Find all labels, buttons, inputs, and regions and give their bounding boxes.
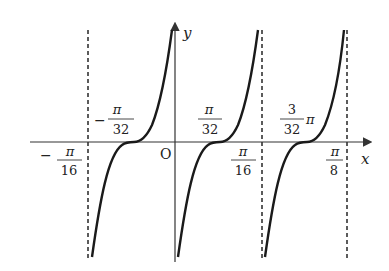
svg-text:16: 16 [235, 163, 252, 178]
svg-text:π: π [330, 144, 340, 159]
svg-text:π: π [65, 144, 75, 159]
label-pi-16: π 16 [231, 144, 256, 178]
svg-text:32: 32 [202, 122, 219, 137]
label-pi-32: π 32 [198, 102, 222, 137]
label-neg-pi-32: − π 32 [94, 102, 134, 137]
svg-text:π: π [305, 112, 315, 127]
svg-text:π: π [112, 102, 122, 117]
curve-branch-1 [92, 30, 172, 257]
svg-text:−: − [94, 112, 106, 128]
label-neg-pi-16: − π 16 [40, 144, 82, 178]
y-axis-label: y [182, 24, 192, 42]
svg-text:π: π [204, 102, 214, 117]
label-pi-8: π 8 [326, 144, 343, 178]
svg-text:32: 32 [113, 122, 130, 137]
label-three-pi-32: 3 32 π [280, 102, 315, 137]
origin-label: O [160, 146, 171, 162]
svg-text:8: 8 [330, 163, 338, 178]
svg-text:3: 3 [288, 102, 296, 117]
svg-text:32: 32 [284, 122, 301, 137]
svg-text:π: π [238, 144, 248, 159]
graph-canvas: y x O − π 32 − π 16 π 32 π 16 [0, 0, 389, 271]
svg-text:16: 16 [61, 163, 78, 178]
x-axis-label: x [361, 150, 370, 168]
tangent-graph-figure: y x O − π 32 − π 16 π 32 π 16 [0, 0, 389, 271]
svg-text:−: − [40, 147, 52, 163]
